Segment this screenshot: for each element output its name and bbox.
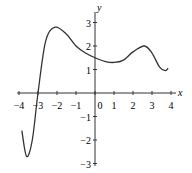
x-axis-label: x [177, 87, 183, 98]
svg-text:−3: −3 [80, 159, 91, 170]
svg-text:3: 3 [150, 100, 155, 111]
svg-text:1: 1 [112, 100, 117, 111]
svg-text:−2: −2 [80, 135, 91, 146]
svg-text:0: 0 [98, 100, 103, 111]
graph: −4−3−2−101234 321−1−2−3 x y [0, 0, 192, 173]
svg-text:1: 1 [86, 65, 91, 76]
svg-text:−2: −2 [52, 100, 63, 111]
svg-text:4: 4 [169, 100, 174, 111]
svg-text:2: 2 [131, 100, 136, 111]
svg-text:2: 2 [86, 41, 91, 52]
svg-text:−1: −1 [80, 112, 91, 123]
y-axis-label: y [96, 2, 102, 13]
svg-text:−3: −3 [33, 100, 44, 111]
svg-text:3: 3 [86, 18, 91, 29]
svg-text:−4: −4 [14, 100, 25, 111]
svg-text:−1: −1 [71, 100, 82, 111]
